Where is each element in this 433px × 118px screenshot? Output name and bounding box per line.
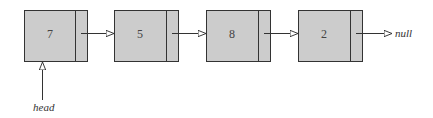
node-value: 7: [47, 27, 53, 41]
list-node-2: 5: [115, 11, 179, 62]
node-next-cell: [76, 11, 88, 62]
node-next-cell: [167, 11, 179, 62]
null-label: null: [395, 27, 412, 39]
list-node-4: 2: [299, 11, 363, 62]
node-value: 8: [229, 27, 235, 41]
node-next-cell: [351, 11, 363, 62]
list-node-3: 8: [207, 11, 271, 62]
linked-list-diagram: 7 5 8 2 null head: [0, 0, 433, 118]
list-node-1: 7: [25, 11, 88, 62]
node-next-cell: [259, 11, 271, 62]
head-label: head: [33, 101, 55, 113]
node-value: 2: [321, 27, 327, 41]
node-value: 5: [137, 27, 143, 41]
